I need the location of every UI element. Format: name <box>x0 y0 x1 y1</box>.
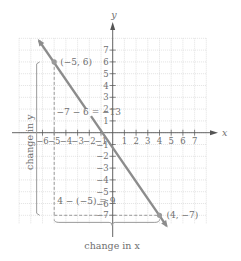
x-tick-label: −2 <box>83 136 96 146</box>
x-tick-label: 7 <box>192 136 197 146</box>
y-tick-label: 5 <box>103 69 108 79</box>
y-tick-label: 7 <box>103 45 108 55</box>
run-equation: 4 − (−5) = 9 <box>57 196 116 206</box>
change-in-y-label: change in y <box>24 114 35 170</box>
x-tick-label: 5 <box>168 136 173 146</box>
x-tick-label: 1 <box>122 136 127 146</box>
y-tick-label: −4 <box>96 175 109 185</box>
point-label-2: (4, −7) <box>167 210 199 220</box>
x-tick-label: 6 <box>180 136 185 146</box>
x-tick-label: 3 <box>145 136 150 146</box>
rise-equation: −7 − 6 = −13 <box>57 107 122 117</box>
x-tick-label: 2 <box>133 136 138 146</box>
x-axis-arrow-icon <box>210 130 218 135</box>
y-tick-label: 1 <box>103 116 108 126</box>
slope-graph: xy −6−5−4−3−2−112345677654321−1−2−3−4−5−… <box>0 0 241 261</box>
y-axis-label: y <box>110 9 117 20</box>
point-marker <box>52 59 57 64</box>
y-tick-label: 6 <box>103 57 108 67</box>
x-tick-label: −4 <box>60 136 73 146</box>
y-tick-label: −3 <box>96 163 109 173</box>
change-in-x-label: change in x <box>84 240 140 251</box>
axes: xy <box>12 9 228 237</box>
point-label-1: (−5, 6) <box>60 57 92 67</box>
x-tick-label: 4 <box>157 136 162 146</box>
y-tick-label: 3 <box>103 92 108 102</box>
coordinate-plane: xy −6−5−4−3−2−112345677654321−1−2−3−4−5−… <box>0 0 241 261</box>
x-tick-label: −3 <box>71 136 84 146</box>
y-tick-label: −2 <box>96 151 109 161</box>
x-tick-label: −6 <box>36 136 49 146</box>
point-marker <box>157 213 162 218</box>
y-axis-arrow-icon <box>110 22 115 30</box>
y-tick-label: 4 <box>103 81 108 91</box>
x-axis-label: x <box>222 127 228 138</box>
line-segment-upper <box>39 41 86 109</box>
